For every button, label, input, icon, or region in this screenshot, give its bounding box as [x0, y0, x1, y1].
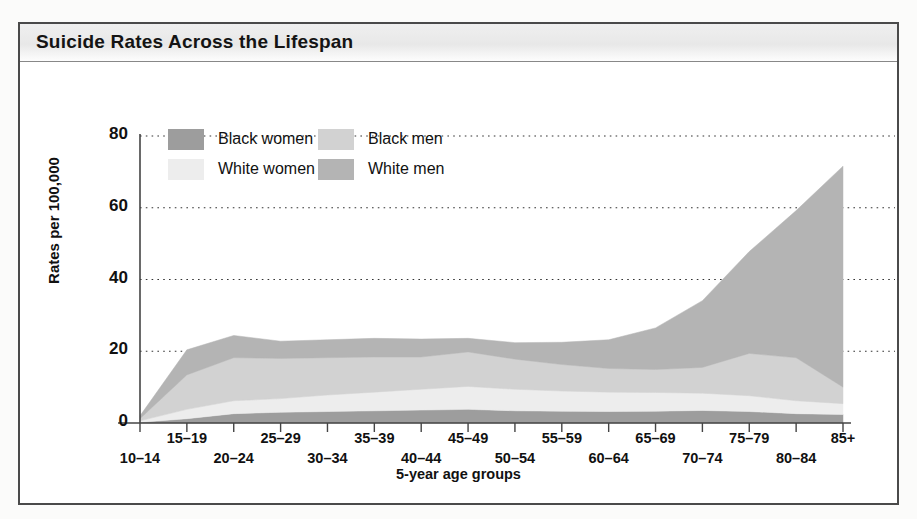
area-chart-svg: [20, 62, 897, 462]
x-tick-label: 35–39: [336, 430, 412, 446]
y-tick-label: 0: [88, 411, 128, 431]
legend-swatch-icon: [318, 129, 354, 150]
x-tick-label: 15–19: [149, 430, 225, 446]
legend-item-white-women: White women: [168, 159, 318, 180]
legend-label: White women: [218, 160, 315, 178]
y-tick-label: 80: [88, 124, 128, 144]
title-band: Suicide Rates Across the Lifespan: [20, 24, 897, 62]
figure-frame: Suicide Rates Across the Lifespan Rates …: [18, 22, 899, 505]
x-tick-label: 45–49: [430, 430, 506, 446]
x-tick-label: 75–79: [711, 430, 787, 446]
page-title: Suicide Rates Across the Lifespan: [36, 31, 353, 53]
legend: Black women Black men White women White …: [168, 124, 468, 184]
legend-item-white-men: White men: [318, 159, 468, 180]
y-tick-label: 20: [88, 339, 128, 359]
y-tick-label: 60: [88, 196, 128, 216]
legend-label: White men: [368, 160, 444, 178]
x-tick-label: 85+: [805, 430, 881, 446]
legend-item-black-women: Black women: [168, 129, 318, 150]
x-tick-label: 70–74: [664, 450, 740, 466]
legend-swatch-icon: [168, 129, 204, 150]
x-tick-label: 65–69: [618, 430, 694, 446]
x-tick-label: 25–29: [243, 430, 319, 446]
legend-row: Black women Black men: [168, 124, 468, 154]
legend-label: Black men: [368, 130, 443, 148]
x-tick-label: 40–44: [383, 450, 459, 466]
x-tick-label: 30–34: [289, 450, 365, 466]
x-tick-label: 20–24: [196, 450, 272, 466]
legend-swatch-icon: [168, 159, 204, 180]
y-tick-label: 40: [88, 268, 128, 288]
x-tick-label: 60–64: [571, 450, 647, 466]
plot-region: Rates per 100,000 020406080 10–1415–1920…: [20, 62, 897, 503]
legend-row: White women White men: [168, 154, 468, 184]
x-tick-label: 50–54: [477, 450, 553, 466]
legend-label: Black women: [218, 130, 313, 148]
x-tick-label: 55–59: [524, 430, 600, 446]
x-axis-title: 5-year age groups: [20, 466, 897, 482]
legend-swatch-icon: [318, 159, 354, 180]
legend-item-black-men: Black men: [318, 129, 468, 150]
x-tick-label: 80–84: [758, 450, 834, 466]
x-tick-label: 10–14: [102, 450, 178, 466]
